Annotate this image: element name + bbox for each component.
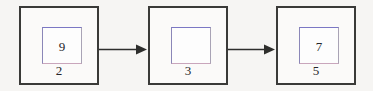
diagram-node-3[interactable]: 7 5: [276, 6, 356, 85]
diagram-node-1[interactable]: 9 2: [19, 6, 99, 85]
inner-value-box-2[interactable]: [171, 27, 211, 64]
arrow-right-icon-2: [228, 44, 276, 55]
arrow-right-icon-1: [99, 44, 148, 55]
diagram-canvas: 9 2 3 7 5: [0, 0, 373, 91]
inner-value-text-3: 7: [300, 39, 338, 52]
diagram-node-2[interactable]: 3: [148, 6, 228, 85]
node-label-2: 3: [150, 64, 226, 78]
inner-value-text-1: 9: [43, 39, 81, 52]
inner-value-box-3[interactable]: 7: [299, 27, 339, 64]
node-label-1: 2: [21, 64, 97, 78]
inner-value-box-1[interactable]: 9: [42, 27, 82, 64]
node-label-3: 5: [278, 64, 354, 78]
